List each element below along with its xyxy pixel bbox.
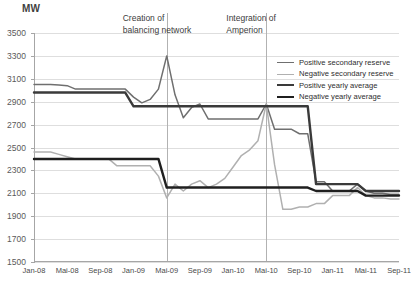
x-axis-tick-label: Sep-09	[188, 266, 212, 275]
series-line	[34, 104, 399, 209]
legend-label: Positive secondary reserve	[299, 57, 390, 68]
y-axis-tick-label: 2300	[0, 165, 26, 175]
x-axis-tick-label: Jan-10	[222, 266, 245, 275]
legend-label: Negative yearly average	[299, 91, 381, 102]
y-axis-tick-mark	[31, 262, 35, 263]
legend-item[interactable]: Positive secondary reserve	[277, 57, 394, 68]
y-axis-tick-label: 1900	[0, 211, 26, 221]
x-axis-tick-label: Mai-09	[155, 266, 178, 275]
legend-label: Positive yearly average	[299, 80, 378, 91]
y-axis-tick-label: 3100	[0, 74, 26, 84]
series-line	[34, 93, 399, 191]
legend-swatch	[277, 62, 294, 63]
series-line	[34, 159, 399, 196]
gridline	[34, 262, 399, 263]
legend-swatch	[277, 74, 294, 75]
x-axis-tick-label: Jan-08	[23, 266, 46, 275]
legend-item[interactable]: Negative yearly average	[277, 91, 394, 102]
legend-item[interactable]: Negative secondary reserve	[277, 68, 394, 79]
legend-swatch	[277, 84, 294, 86]
y-axis-tick-label: 2100	[0, 188, 26, 198]
x-axis-tick-label: Sep-10	[287, 266, 311, 275]
legend-label: Negative secondary reserve	[299, 68, 394, 79]
legend-item[interactable]: Positive yearly average	[277, 80, 394, 91]
y-axis-tick-label: 2700	[0, 120, 26, 130]
y-axis-tick-label: 2900	[0, 97, 26, 107]
x-axis-tick-label: Jan-09	[122, 266, 145, 275]
y-axis-unit-label: MW	[22, 3, 40, 14]
legend-swatch	[277, 96, 294, 98]
x-axis-tick-label: Sep-08	[88, 266, 112, 275]
y-axis-tick-label: 1700	[0, 234, 26, 244]
y-axis-tick-label: 3300	[0, 51, 26, 61]
x-axis-tick-label: Sep-11	[387, 266, 411, 275]
y-axis-tick-label: 3500	[0, 28, 26, 38]
x-axis-tick-label: Mai-08	[56, 266, 79, 275]
x-axis-tick-label: Mai-10	[255, 266, 278, 275]
x-axis-tick-label: Jan-11	[321, 266, 343, 275]
annotation-label-creation-of-balancing-network: Creation of balancing network	[123, 12, 192, 36]
y-axis-tick-label: 2500	[0, 143, 26, 153]
annotation-label-integration-of-amperion: Integration of Amperion	[226, 12, 276, 36]
chart-legend: Positive secondary reserveNegative secon…	[277, 57, 394, 103]
x-axis-tick-label: Mai-11	[355, 266, 377, 275]
